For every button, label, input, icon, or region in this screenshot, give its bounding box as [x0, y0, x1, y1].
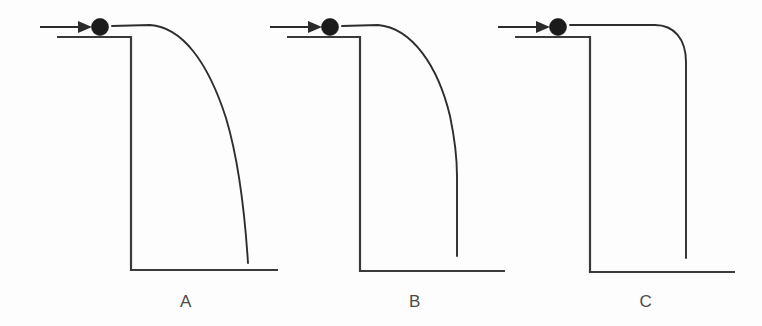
panel-label-a: A	[180, 292, 192, 311]
ledge-wall-ground-c	[515, 37, 735, 272]
right-arrow-icon-a	[78, 21, 92, 33]
right-arrow-icon-b	[308, 21, 322, 33]
ball-icon-a	[92, 19, 109, 36]
ledge-wall-ground-a	[57, 37, 278, 270]
panel-c: C	[498, 19, 735, 312]
panel-b: B	[270, 19, 505, 312]
trajectory-path-c	[570, 25, 686, 258]
figure-canvas: A B C	[0, 0, 762, 326]
panel-label-b: B	[409, 292, 421, 311]
panel-a: A	[40, 19, 278, 312]
physics-trajectory-figure: A B C	[0, 0, 762, 326]
trajectory-path-a	[112, 25, 248, 263]
ball-icon-c	[550, 19, 567, 36]
panel-label-c: C	[640, 292, 653, 311]
ledge-wall-ground-b	[287, 37, 505, 271]
ball-icon-b	[322, 19, 339, 36]
right-arrow-icon-c	[536, 21, 550, 33]
